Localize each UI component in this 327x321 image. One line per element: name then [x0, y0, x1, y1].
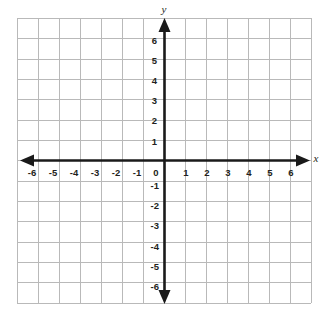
- origin-label: 0: [153, 167, 158, 178]
- x-tick-label: -3: [91, 167, 99, 178]
- x-tick-label: 4: [246, 167, 252, 178]
- y-tick-label: 1: [152, 136, 158, 147]
- y-tick-label: -4: [151, 241, 160, 252]
- y-tick-label: 4: [152, 75, 158, 86]
- x-tick-label: 6: [288, 167, 293, 178]
- y-tick-label: -5: [151, 261, 160, 272]
- x-tick-label: -6: [28, 167, 36, 178]
- y-tick-label: -1: [151, 180, 160, 191]
- x-axis-label: x: [313, 152, 319, 164]
- x-tick-label: 3: [225, 167, 230, 178]
- y-tick-label: -3: [151, 220, 159, 231]
- x-tick-label: -4: [70, 167, 79, 178]
- y-tick-label: 3: [152, 95, 157, 106]
- x-tick-label: 1: [183, 167, 189, 178]
- y-tick-label: 5: [152, 55, 158, 66]
- x-tick-label: -1: [133, 167, 142, 178]
- y-tick-label: -2: [151, 200, 159, 211]
- coordinate-grid-svg: x y -6 -5 -4 -3 -2 -1 0 1 2 3 4 5 6 6 5 …: [0, 0, 327, 321]
- y-tick-label: 2: [152, 115, 157, 126]
- coordinate-plane-figure: x y -6 -5 -4 -3 -2 -1 0 1 2 3 4 5 6 6 5 …: [0, 0, 327, 321]
- y-tick-label: 6: [152, 35, 157, 46]
- x-tick-label: 5: [267, 167, 273, 178]
- y-axis-label: y: [161, 3, 167, 15]
- x-tick-label: -2: [112, 167, 120, 178]
- x-tick-label: 2: [204, 167, 209, 178]
- y-tick-label: -6: [151, 281, 159, 292]
- x-tick-label: -5: [49, 167, 58, 178]
